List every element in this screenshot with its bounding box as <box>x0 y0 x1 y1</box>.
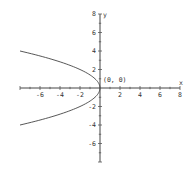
x-tick-label: -2 <box>76 91 84 99</box>
x-tick-label: -6 <box>36 91 44 99</box>
x-tick-label: 2 <box>118 91 122 99</box>
x-tick-label: 8 <box>178 91 182 99</box>
y-tick-label: 4 <box>92 47 96 55</box>
y-tick-label: -4 <box>88 121 96 129</box>
y-tick-label: -2 <box>88 103 96 111</box>
parabola-chart: -6-4-224688642-2-4-6 x y (0, 0) <box>0 0 192 170</box>
y-tick-label: 6 <box>92 29 96 37</box>
y-tick-label: -6 <box>88 140 96 148</box>
y-tick-label: 2 <box>92 66 96 74</box>
y-tick-label: 8 <box>92 10 96 18</box>
vertex-annotation: (0, 0) <box>103 76 126 84</box>
x-axis-label: x <box>179 79 183 87</box>
x-tick-label: 4 <box>138 91 142 99</box>
x-tick-label: 6 <box>158 91 162 99</box>
y-axis-label: y <box>103 11 107 19</box>
x-tick-label: -4 <box>56 91 64 99</box>
